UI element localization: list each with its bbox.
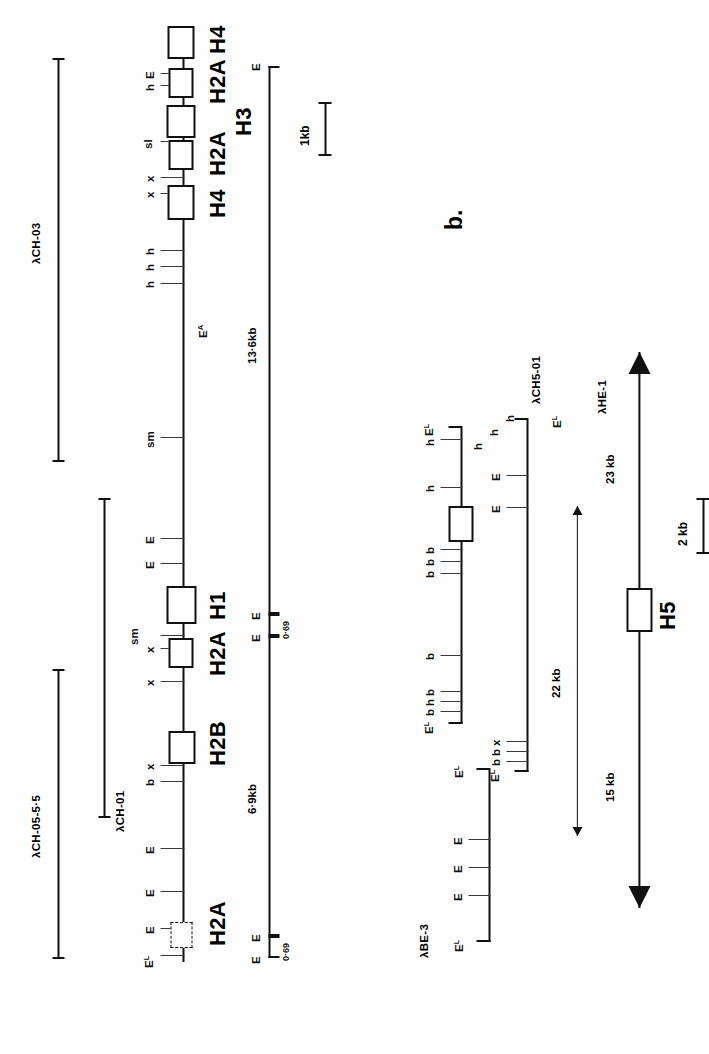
ch5-01-inferred-pointer-2	[494, 436, 502, 462]
clone-label-ch-05-55: λCH-05-5·5	[30, 795, 42, 858]
site-tick-h-3	[160, 250, 184, 251]
site-label-sl-1: sl	[142, 139, 154, 149]
panel-b: b. EL EL b h b b b b b h	[360, 0, 709, 1054]
gene-label-H2A-right: H2A	[206, 901, 228, 946]
fragment-bracket-6-9kb	[268, 636, 279, 936]
fragment-cap-right	[268, 636, 279, 638]
be-3-tick-E-1	[468, 895, 490, 896]
scale-label-2kb: 2 kb	[676, 522, 688, 546]
scale-cap-right	[696, 498, 709, 500]
site-label-h-3: h	[144, 248, 156, 255]
fragment-bar	[268, 66, 270, 614]
distance-label-22kb: 22 kb	[550, 669, 562, 698]
clone-bracket-ch-03	[52, 58, 64, 462]
figure-page: λCH-05-5·5 λCH-01 λCH-03 EL E E	[0, 0, 709, 1054]
distance-arrow-22kb	[572, 506, 582, 836]
scale-label-1kb: 1kb	[298, 125, 310, 146]
clone-bracket-ch-01	[98, 498, 110, 818]
he-1-tick-b-2	[506, 751, 528, 752]
site-tick-E-5	[160, 538, 184, 539]
site-tick-sm-2	[160, 437, 184, 438]
ch5-01-inferred-site-h-2: h	[488, 429, 500, 436]
site-label-E-4: E	[144, 561, 156, 569]
gene-box-H3	[166, 105, 195, 138]
clone-label-be-3: λBE-3	[418, 924, 430, 958]
ch5-01-tick-h-2	[440, 487, 462, 488]
ch5-01-tick-h-1	[440, 701, 462, 702]
site-label-E-3: E	[144, 846, 156, 854]
ch5-01-site-b-5: b	[424, 559, 436, 566]
be-3-site-E-1: E	[452, 893, 464, 901]
gene-box-H2A-3	[168, 140, 193, 170]
restriction-map-figure: λCH-05-5·5 λCH-01 λCH-03 EL E E	[0, 0, 709, 1054]
site-tick-x-5	[160, 177, 184, 178]
ch5-01-site-b-3: b	[424, 653, 436, 660]
superscript-L: L	[421, 423, 430, 428]
ch5-01-label-E-L-left: EL	[422, 423, 435, 436]
ch5-01-tick-h-3	[440, 439, 462, 440]
be-3-tick-E-2	[468, 867, 490, 868]
ch5-01-label-E-L-right: EL	[422, 721, 435, 734]
fragment-cap-right	[268, 936, 279, 938]
fragment-site-E-r2: E	[250, 934, 262, 942]
ch5-01-tick-b-3	[440, 655, 462, 656]
arrow-head-right	[572, 506, 582, 515]
site-label-h-4: h	[144, 84, 156, 91]
ch5-01-site-b-4: b	[424, 571, 436, 578]
ch5-01-inferred-pointer-1	[478, 450, 486, 476]
site-label-h-1: h	[144, 281, 156, 288]
superscript-L: L	[451, 939, 460, 944]
he-1-tick-x-1	[506, 741, 528, 742]
clone-label-ch5-01: λCH5-01	[530, 356, 542, 404]
ch5-01-tick-b-4	[440, 573, 462, 574]
clone-label-ch-01: λCH-01	[114, 791, 126, 832]
be-3-tick-E-3	[468, 839, 490, 840]
ch5-01-tick-b-6	[440, 549, 462, 550]
site-label-x-5: x	[144, 175, 156, 182]
h5-gene-label: H5	[656, 601, 678, 630]
fragment-bracket-0-69-right	[268, 936, 279, 958]
superscript-L: L	[421, 721, 430, 726]
scale-bar-line	[702, 498, 704, 554]
site-label-sm-2: sm	[144, 431, 156, 448]
gene-box-H4-2	[167, 26, 194, 59]
site-label-E-L-right: EL	[142, 955, 155, 968]
fragment-site-E-m2: E	[250, 612, 262, 620]
site-label-x-4: x	[144, 191, 156, 198]
fragment-cap-right	[268, 66, 279, 68]
site-tick-b-1	[160, 781, 184, 782]
fragment-cap-right	[268, 614, 279, 616]
ch5-01-left-end-cap	[448, 427, 462, 429]
ch5-01-site-b-1: b	[424, 709, 436, 716]
clone-bracket-ch-05-55	[52, 669, 64, 959]
fragment-cap-left	[268, 956, 279, 958]
arrow-shaft	[576, 506, 577, 836]
ch5-01-backbone-line	[460, 428, 462, 724]
ch5-01-inferred-site-h-1: h	[472, 443, 484, 450]
he-1-tick-E-1	[506, 507, 528, 508]
gene-box-H2B	[168, 731, 195, 764]
ch5-01-tick-b-1	[440, 711, 462, 712]
site-label-x-2: x	[144, 679, 156, 686]
ch5-01-gene-box-H5	[448, 506, 473, 542]
site-tick-x-1	[160, 765, 184, 766]
ch5-01-right-end-cap	[448, 723, 462, 725]
gene-box-H2A-4	[168, 68, 193, 98]
bracket-cap-right	[52, 58, 64, 60]
site-label-h-2: h	[144, 264, 156, 271]
probe-pointer-arrow-EA	[186, 324, 194, 364]
be-3-backbone	[488, 770, 490, 942]
ch5-01-tick-b-5	[440, 561, 462, 562]
site-label-E-1: E	[144, 926, 156, 934]
panel-b-letter: b.	[442, 210, 465, 230]
probe-label-E-A: EA	[196, 325, 209, 339]
be-3-site-E-2: E	[452, 865, 464, 873]
fragment-bracket-13-6kb	[268, 66, 279, 614]
fragment-site-E-end: E	[250, 63, 262, 71]
gene-label-H2A-a: H2A	[206, 131, 228, 176]
fragment-bracket-0-69-mid	[268, 614, 279, 636]
gene-label-H2B: H2B	[206, 721, 228, 766]
site-tick-E-3	[160, 848, 184, 849]
gene-box-H2A-dashed	[170, 922, 192, 948]
fragment-bar	[268, 614, 270, 636]
